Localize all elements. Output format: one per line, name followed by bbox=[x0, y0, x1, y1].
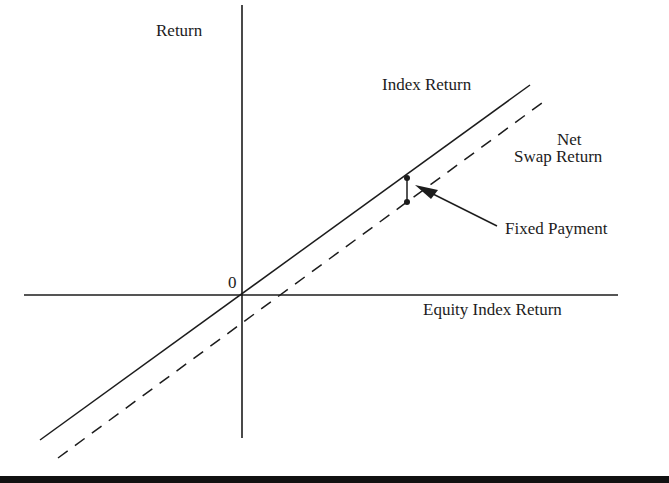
net-swap-return-line bbox=[58, 100, 546, 458]
bracket-top-dot bbox=[404, 175, 410, 181]
index-return-label: Index Return bbox=[382, 76, 471, 93]
origin-label: 0 bbox=[228, 274, 237, 291]
fixed-payment-arrow-shaft bbox=[425, 190, 497, 226]
net-label: Net bbox=[557, 131, 582, 148]
fixed-payment-label: Fixed Payment bbox=[505, 220, 607, 237]
bottom-border-bar bbox=[0, 476, 669, 483]
arrow-head-icon bbox=[415, 185, 438, 199]
swap-return-label: Swap Return bbox=[514, 148, 602, 165]
index-return-line bbox=[40, 85, 530, 440]
diagram-canvas bbox=[0, 0, 669, 483]
y-axis-label: Return bbox=[156, 22, 202, 39]
x-axis-label: Equity Index Return bbox=[423, 301, 562, 318]
bracket-bottom-dot bbox=[404, 199, 410, 205]
